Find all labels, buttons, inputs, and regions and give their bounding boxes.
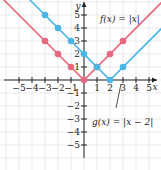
y-tick-label: −5 [67, 140, 81, 150]
x-tick-label: −3 [38, 83, 52, 93]
x-tick-label: 2 [107, 83, 113, 93]
data-point-f [107, 51, 114, 58]
y-tick-label: 1 [74, 62, 80, 72]
series-label-f: f(x) = |x| [99, 14, 140, 25]
x-tick-label: −5 [12, 83, 26, 93]
x-axis-label: x [152, 82, 157, 92]
data-point-g [81, 51, 88, 58]
y-axis-label: y [74, 1, 81, 11]
series-lines [0, 0, 161, 80]
y-axis-arrow [82, 2, 87, 7]
chart: −5−4−3−2−11234554321−1−2−3−4−5xyf(x) = |… [0, 0, 161, 170]
data-point-f [81, 77, 88, 84]
data-point-f [120, 38, 127, 45]
x-tick-label: 1 [94, 83, 100, 93]
y-tick-label: 2 [74, 49, 80, 59]
axes [4, 2, 157, 158]
y-tick-label: −3 [67, 114, 81, 124]
data-point-f [55, 51, 62, 58]
y-tick-label: −2 [67, 101, 80, 111]
data-point-g [42, 12, 49, 19]
data-point-f [42, 38, 49, 45]
y-tick-label: 4 [74, 23, 80, 33]
data-point-g [120, 64, 127, 71]
x-tick-label: 5 [146, 83, 152, 93]
y-tick-label: −4 [67, 127, 81, 137]
series-line-f [0, 0, 161, 80]
data-point-g [55, 25, 62, 32]
series-label-g-pointer [116, 84, 121, 108]
y-tick-label: 5 [74, 10, 80, 20]
y-tick-label: 3 [74, 36, 80, 46]
x-tick-label: −2 [51, 83, 64, 93]
y-tick-label: −1 [67, 88, 80, 98]
data-point-g [94, 64, 101, 71]
series-line-g [19, 0, 161, 80]
x-tick-label: 4 [133, 83, 139, 93]
x-tick-label: −4 [25, 83, 39, 93]
series-label-g: g(x) = |x − 2| [92, 117, 153, 128]
